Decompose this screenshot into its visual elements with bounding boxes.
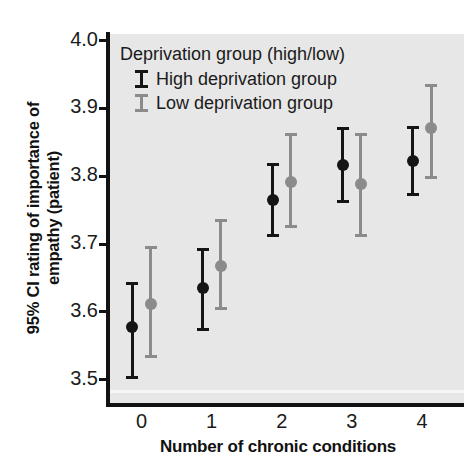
error-bar-cap-upper xyxy=(285,133,297,136)
data-point-marker xyxy=(197,282,209,294)
y-axis-tick xyxy=(99,39,107,42)
error-bar-cap-upper xyxy=(407,126,419,129)
legend-title: Deprivation group (high/low) xyxy=(120,44,420,65)
error-bar xyxy=(211,219,231,311)
data-point-marker xyxy=(126,321,138,333)
error-bar-cap-lower xyxy=(425,176,437,179)
error-bar-cap-upper xyxy=(267,163,279,166)
data-point-marker xyxy=(145,298,157,310)
legend-errorbar-icon xyxy=(133,70,149,88)
error-bar-cap-lower xyxy=(197,328,209,331)
figure-container: 3.53.63.73.83.94.0 01234 95% CI rating o… xyxy=(0,0,464,473)
x-axis-tick-label: 1 xyxy=(192,410,232,433)
error-bar-cap-lower xyxy=(285,225,297,228)
error-bar-cap-lower xyxy=(267,234,279,237)
error-bar xyxy=(263,163,283,236)
y-axis-title-line2: empathy (patient) xyxy=(43,23,63,413)
y-axis-title: 95% CI rating of importance of empathy (… xyxy=(23,23,63,413)
legend-item[interactable]: Low deprivation group xyxy=(133,91,420,115)
y-axis-tick xyxy=(99,310,107,313)
x-axis-line xyxy=(106,403,464,407)
y-axis-tick xyxy=(99,243,107,246)
error-bar-cap-upper xyxy=(425,84,437,87)
data-point-marker xyxy=(267,194,279,206)
error-bar-cap-lower xyxy=(355,234,367,237)
x-axis-tick-label: 0 xyxy=(122,410,162,433)
error-bar xyxy=(421,84,441,179)
error-bar-cap-upper xyxy=(215,219,227,222)
data-point-marker xyxy=(407,155,419,167)
error-bar-cap-lower xyxy=(126,376,138,379)
data-point-marker xyxy=(337,159,349,171)
error-bar-cap-lower xyxy=(145,355,157,358)
error-bar xyxy=(403,126,423,196)
data-point-marker xyxy=(285,176,297,188)
baseline-rule xyxy=(110,390,464,393)
error-bar xyxy=(141,246,161,358)
error-bar-cap-upper xyxy=(355,133,367,136)
error-bar xyxy=(122,282,142,379)
y-axis-tick xyxy=(99,378,107,381)
error-bar xyxy=(281,133,301,228)
y-axis-tick xyxy=(99,175,107,178)
x-axis-tick-label: 4 xyxy=(402,410,442,433)
error-bar-cap-upper xyxy=(145,246,157,249)
error-bar-cap-lower xyxy=(215,307,227,310)
error-bar-cap-lower xyxy=(337,200,349,203)
error-bar xyxy=(333,127,353,203)
error-bar-cap-lower xyxy=(407,193,419,196)
legend-box: Deprivation group (high/low)High depriva… xyxy=(120,44,420,115)
x-axis-tick-label: 2 xyxy=(262,410,302,433)
legend-errorbar-icon xyxy=(133,94,149,112)
x-axis-title: Number of chronic conditions xyxy=(92,437,464,457)
legend-item-label: Low deprivation group xyxy=(156,93,333,114)
data-point-marker xyxy=(355,178,367,190)
error-bar-cap-upper xyxy=(197,248,209,251)
error-bar xyxy=(351,133,371,237)
y-axis-title-line1: 95% CI rating of importance of xyxy=(23,23,43,413)
error-bar xyxy=(193,248,213,331)
error-bar-cap-upper xyxy=(337,127,349,130)
data-point-marker xyxy=(215,260,227,272)
data-point-marker xyxy=(425,122,437,134)
error-bar-cap-upper xyxy=(126,282,138,285)
legend-item[interactable]: High deprivation group xyxy=(133,67,420,91)
y-axis-line xyxy=(106,32,110,407)
legend-item-label: High deprivation group xyxy=(156,69,337,90)
y-axis-tick xyxy=(99,107,107,110)
x-axis-tick-label: 3 xyxy=(332,410,372,433)
